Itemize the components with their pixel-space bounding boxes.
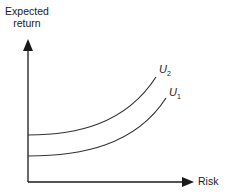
x-axis-arrow-icon xyxy=(182,177,194,187)
curve-label-u2-main: U xyxy=(159,63,167,75)
y-axis-arrow-icon xyxy=(23,39,33,51)
curve-label-u2: U2 xyxy=(159,63,171,77)
curve-u2 xyxy=(28,77,156,135)
y-axis-label-line1: Expected xyxy=(2,5,52,17)
curve-label-u1: U1 xyxy=(169,86,181,100)
curve-label-u2-sub: 2 xyxy=(167,70,171,77)
curve-label-u1-sub: 1 xyxy=(177,93,181,100)
curve-label-u1-main: U xyxy=(169,86,177,98)
y-axis-label: Expected return xyxy=(2,5,52,29)
chart-canvas xyxy=(0,0,229,195)
y-axis-label-line2: return xyxy=(2,17,52,29)
curve-u1 xyxy=(28,98,166,156)
x-axis-label: Risk xyxy=(198,175,218,187)
